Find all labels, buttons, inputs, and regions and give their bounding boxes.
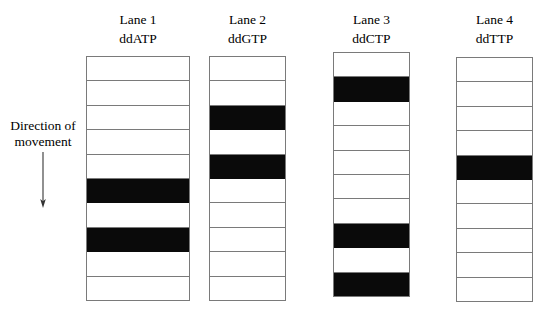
gel-row: [334, 53, 409, 77]
lane-header: Lane 3ddCTP: [333, 10, 410, 48]
lane-column: Lane 2ddGTP: [209, 10, 286, 48]
lane-column: Lane 3ddCTP: [333, 10, 410, 48]
gel-row: [87, 203, 189, 227]
gel-band: [334, 224, 409, 248]
lane-subtitle: ddGTP: [209, 29, 286, 48]
gel-band: [457, 156, 532, 180]
gel-row: [210, 203, 285, 227]
arrow-down-icon: [36, 152, 50, 208]
gel-row: [87, 106, 189, 130]
lane-header: Lane 2ddGTP: [209, 10, 286, 48]
gel-row: [210, 179, 285, 203]
gel-row: [87, 155, 189, 179]
gel-row: [334, 151, 409, 175]
gel-row: [87, 81, 189, 105]
gel-band: [210, 106, 285, 130]
direction-label-line-2: movement: [0, 134, 86, 150]
gel-row: [87, 57, 189, 81]
lane-header: Lane 1ddATP: [86, 10, 190, 48]
lane-header: Lane 4ddTTP: [456, 10, 533, 48]
gel-row: [210, 277, 285, 300]
gel-row: [457, 278, 532, 301]
gel-band: [210, 155, 285, 179]
gel-row: [334, 175, 409, 199]
gel-row: [457, 253, 532, 277]
gel-row: [457, 229, 532, 253]
gel-lane-box: [209, 56, 286, 301]
gel-band: [334, 273, 409, 296]
lane-title: Lane 1: [86, 10, 190, 29]
gel-band: [87, 228, 189, 252]
gel-band: [334, 77, 409, 101]
direction-label-line-1: Direction of: [0, 118, 86, 134]
gel-row: [87, 130, 189, 154]
gel-row: [457, 180, 532, 204]
lane-column: Lane 1ddATP: [86, 10, 190, 48]
gel-row: [334, 248, 409, 272]
lane-title: Lane 4: [456, 10, 533, 29]
lane-subtitle: ddATP: [86, 29, 190, 48]
gel-lane-box: [456, 57, 533, 302]
gel-row: [457, 82, 532, 106]
lane-subtitle: ddTTP: [456, 29, 533, 48]
gel-row: [457, 107, 532, 131]
gel-row: [210, 252, 285, 276]
gel-row: [457, 131, 532, 155]
gel-row: [457, 58, 532, 82]
gel-diagram-canvas: Direction of movement Lane 1ddATPLane 2d…: [0, 0, 543, 312]
direction-of-movement-label: Direction of movement: [0, 118, 86, 150]
gel-row: [457, 204, 532, 228]
gel-row: [334, 102, 409, 126]
gel-lane-box: [333, 52, 410, 297]
gel-row: [210, 57, 285, 81]
lane-title: Lane 3: [333, 10, 410, 29]
lane-title: Lane 2: [209, 10, 286, 29]
gel-band: [87, 179, 189, 203]
gel-row: [210, 228, 285, 252]
lane-subtitle: ddCTP: [333, 29, 410, 48]
gel-row: [334, 126, 409, 150]
gel-row: [87, 277, 189, 300]
gel-row: [210, 81, 285, 105]
gel-lane-box: [86, 56, 190, 301]
gel-row: [334, 199, 409, 223]
gel-row: [87, 252, 189, 276]
gel-row: [210, 130, 285, 154]
lane-column: Lane 4ddTTP: [456, 10, 533, 48]
direction-arrow: [0, 152, 86, 208]
